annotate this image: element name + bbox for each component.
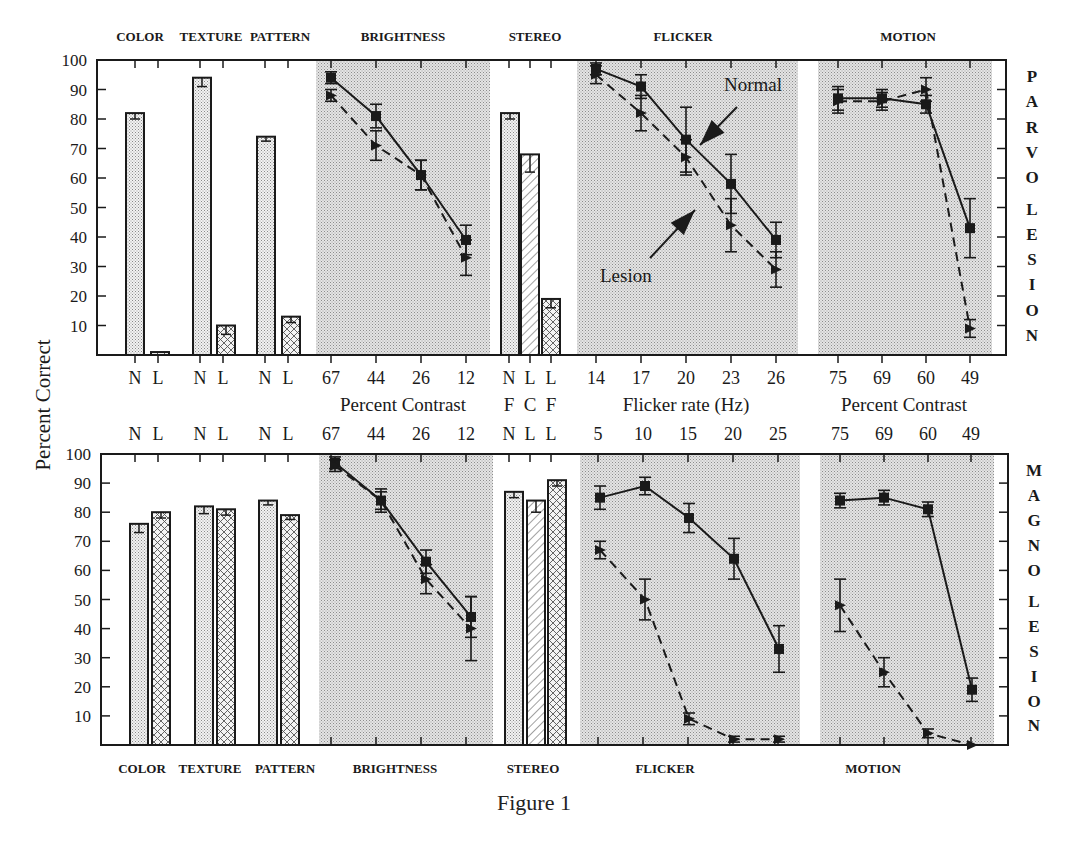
side-label-letter: G	[1027, 511, 1040, 530]
x-tick-label: 26	[412, 424, 430, 444]
x-tick-label: 12	[457, 368, 475, 388]
y-tick-label: 30	[70, 258, 87, 277]
square-marker	[923, 504, 933, 514]
x-tick-label: L	[283, 368, 294, 388]
square-marker	[326, 73, 336, 83]
shaded-region	[316, 61, 490, 354]
x-tick-label: L	[525, 368, 536, 388]
x-tick-label: 20	[724, 424, 742, 444]
group-label: STEREO	[509, 29, 562, 44]
x-tick-label: L	[153, 424, 164, 444]
side-label-letter: M	[1026, 461, 1042, 480]
side-label-letter: I	[1031, 667, 1038, 686]
group-label: TEXTURE	[180, 29, 243, 44]
x-tick-label: 60	[917, 368, 935, 388]
bar-texture-n	[195, 506, 213, 745]
bar-stereo-nf	[501, 113, 519, 355]
group-label: MOTION	[880, 29, 936, 44]
x-tick-label: 75	[829, 368, 847, 388]
x-tick-label: 26	[412, 368, 430, 388]
x-tick-label: N	[194, 424, 207, 444]
group-label: FLICKER	[653, 29, 713, 44]
group-label: MOTION	[845, 761, 901, 776]
bar-color-n	[126, 113, 144, 355]
y-tick-label: 70	[70, 140, 87, 159]
square-marker	[636, 82, 646, 92]
square-marker	[640, 481, 650, 491]
x-tick-label: 49	[961, 368, 979, 388]
y-tick-label: 20	[70, 287, 87, 306]
group-label: BRIGHTNESS	[353, 761, 438, 776]
y-tick-label: 80	[70, 110, 87, 129]
x-tick-label: 69	[873, 368, 891, 388]
shaded-region	[319, 455, 493, 744]
y-tick-label: 60	[74, 561, 91, 580]
x-tick-label: 67	[322, 424, 340, 444]
magno-lesion-panel: 102030405060708090100NLNLNL67442612NLL51…	[66, 424, 1043, 776]
x-tick-label: 17	[632, 368, 650, 388]
x-axis-title: Flicker rate (Hz)	[623, 394, 750, 416]
x-axis-title: Percent Contrast	[841, 394, 968, 415]
side-label-letter: O	[1025, 301, 1038, 320]
x-tick-label: 67	[322, 368, 340, 388]
side-label-letter: O	[1027, 561, 1040, 580]
x-tick-label: L	[546, 368, 557, 388]
side-label-letter: A	[1028, 486, 1041, 505]
y-tick-label: 90	[74, 474, 91, 493]
x-tick-label: 23	[722, 368, 740, 388]
side-label-letter: N	[1028, 716, 1041, 735]
group-label: PATTERN	[250, 29, 311, 44]
side-label-letter: N	[1028, 536, 1041, 555]
bar-texture-l	[217, 509, 235, 745]
side-label-letter: L	[1028, 592, 1039, 611]
x-tick-label: L	[525, 424, 536, 444]
x-tick-label: N	[259, 424, 272, 444]
bar-stereo-lf	[548, 480, 566, 745]
x-tick-label: L	[546, 424, 557, 444]
x-tick-label: 12	[457, 424, 475, 444]
annotation-normal: Normal	[724, 74, 782, 95]
x-tick-label: 20	[677, 368, 695, 388]
side-label-letter: N	[1026, 326, 1039, 345]
square-marker	[879, 493, 889, 503]
x-axis-title: C	[524, 394, 537, 415]
x-axis-title: F	[546, 394, 557, 415]
bar-pattern-l	[281, 515, 299, 745]
side-label-letter: O	[1027, 692, 1040, 711]
x-tick-label: 25	[769, 424, 787, 444]
y-tick-label: 50	[74, 591, 91, 610]
bar-pattern-n	[257, 137, 275, 355]
figure-caption: Figure 1	[0, 790, 1068, 816]
group-label: COLOR	[118, 761, 166, 776]
bar-stereo-lc	[521, 154, 539, 355]
bar-color-l	[152, 512, 170, 745]
x-axis-title: Percent Contrast	[340, 394, 467, 415]
y-tick-label: 30	[74, 649, 91, 668]
x-tick-label: N	[503, 368, 516, 388]
x-tick-label: L	[153, 368, 164, 388]
y-tick-label: 80	[74, 503, 91, 522]
square-marker	[835, 496, 845, 506]
x-tick-label: 15	[679, 424, 697, 444]
parvo-lesion-panel: 102030405060708090100NLNLNL67442612NLL14…	[62, 29, 1039, 416]
side-label-letter: S	[1029, 642, 1038, 661]
y-tick-label: 50	[70, 199, 87, 218]
square-marker	[371, 111, 381, 121]
side-label-letter: V	[1026, 143, 1039, 162]
x-tick-label: 14	[587, 368, 605, 388]
x-tick-label: 10	[634, 424, 652, 444]
side-label-letter: O	[1025, 168, 1038, 187]
shaded-region	[818, 61, 992, 354]
y-tick-label: 40	[74, 620, 91, 639]
y-tick-label: 100	[66, 445, 92, 464]
x-tick-label: L	[283, 424, 294, 444]
side-label-letter: S	[1027, 250, 1036, 269]
square-marker	[967, 685, 977, 695]
group-label: STEREO	[507, 761, 560, 776]
y-tick-label: 60	[70, 169, 87, 188]
group-label: PATTERN	[255, 761, 316, 776]
square-marker	[774, 644, 784, 654]
side-label-letter: P	[1027, 67, 1037, 86]
x-tick-label: 60	[919, 424, 937, 444]
x-tick-label: 69	[875, 424, 893, 444]
